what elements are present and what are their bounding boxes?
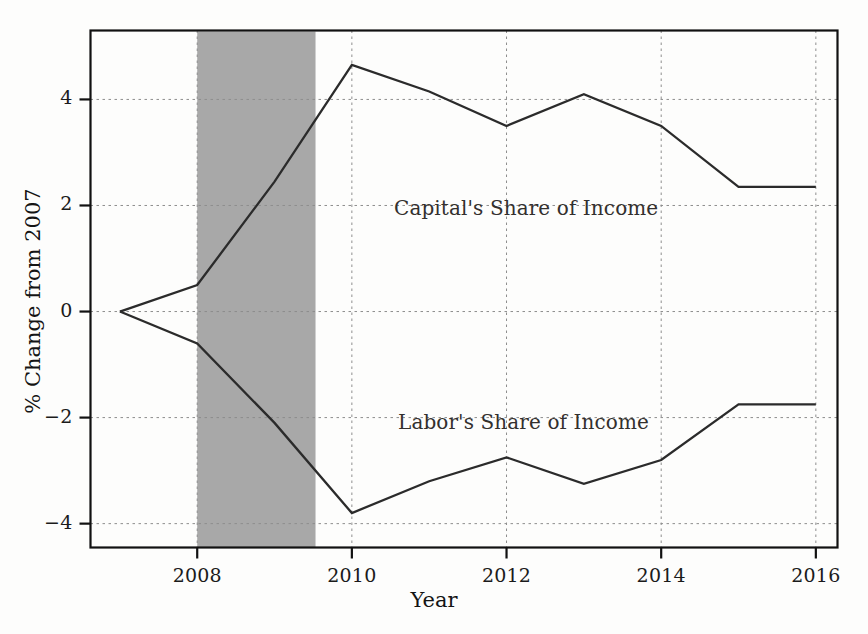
line-chart-plot [0, 0, 868, 634]
y-tick-label: −4 [1, 511, 73, 533]
x-axis-title: Year [0, 588, 868, 612]
x-tick-label: 2016 [766, 564, 866, 586]
tick-marks-group [80, 99, 816, 558]
recession-band-group [197, 32, 315, 548]
y-tick-label: 4 [1, 86, 73, 108]
x-tick-label: 2008 [147, 564, 247, 586]
x-tick-label: 2014 [611, 564, 711, 586]
x-tick-label: 2012 [457, 564, 557, 586]
recession-band [197, 32, 315, 548]
capital-series-label: Capital's Share of Income [394, 196, 658, 220]
y-axis-title: % Change from 2007 [21, 151, 45, 451]
chart-figure: 420−2−4 20082010201220142016 Year % Chan… [0, 0, 868, 634]
x-tick-label: 2010 [302, 564, 402, 586]
labor-series-label: Labor's Share of Income [398, 410, 649, 434]
